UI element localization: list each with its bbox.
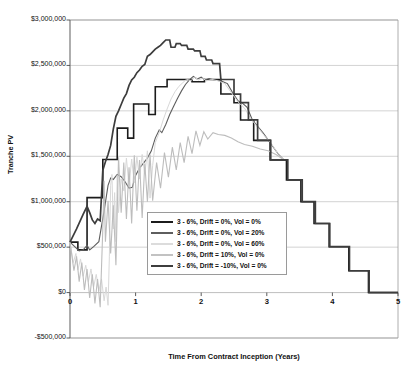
- chart-container: -$500,000$0$500,000$1,000,000$1,500,000$…: [0, 0, 413, 369]
- legend-item-label: 3 - 6%, Drift = 0%, Vol = 60%: [177, 239, 264, 249]
- y-axis-title: Tranche PV: [6, 123, 15, 187]
- legend-swatch-icon: [151, 254, 173, 256]
- legend-item: 3 - 6%, Drift = 0%, Vol = 20%: [151, 227, 282, 238]
- x-axis-tick-label: 2: [186, 297, 216, 306]
- x-axis-tick-label: 0: [55, 297, 85, 306]
- x-axis-tick-label: 1: [121, 297, 151, 306]
- x-axis-tick-label: 3: [252, 297, 282, 306]
- legend-item: 3 - 6%, Drift = 10%, Vol = 0%: [151, 249, 282, 260]
- chart-plot-area: [0, 0, 413, 369]
- legend-item-label: 3 - 6%, Drift = 0%, Vol = 20%: [177, 228, 264, 238]
- legend-swatch-icon: [151, 221, 173, 223]
- x-axis-tick-label: 4: [317, 297, 347, 306]
- legend-item-label: 3 - 6%, Drift = 10%, Vol = 0%: [177, 250, 264, 260]
- legend-item: 3 - 6%, Drift = 0%, Vol = 60%: [151, 238, 282, 249]
- legend-item-label: 3 - 6%, Drift = -10%, Vol = 0%: [177, 261, 267, 271]
- x-axis-title: Time From Contract Inception (Years): [70, 352, 398, 361]
- chart-legend: 3 - 6%, Drift = 0%, Vol = 0%3 - 6%, Drif…: [147, 212, 287, 275]
- x-axis-tick-label: 5: [383, 297, 413, 306]
- legend-swatch-icon: [151, 265, 173, 267]
- legend-swatch-icon: [151, 243, 173, 245]
- legend-item: 3 - 6%, Drift = -10%, Vol = 0%: [151, 260, 282, 271]
- axis-lines: [67, 20, 399, 338]
- legend-swatch-icon: [151, 232, 173, 234]
- legend-item-label: 3 - 6%, Drift = 0%, Vol = 0%: [177, 217, 261, 227]
- legend-item: 3 - 6%, Drift = 0%, Vol = 0%: [151, 216, 282, 227]
